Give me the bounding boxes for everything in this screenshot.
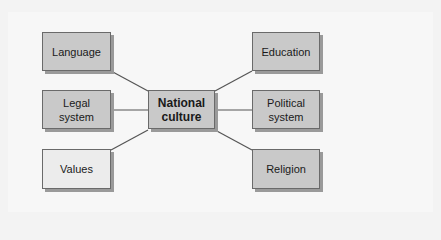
node-label: Religion	[266, 163, 306, 175]
node-national-culture: National culture	[148, 90, 215, 129]
node-legal-system: Legal system	[42, 90, 111, 129]
node-education: Education	[252, 32, 320, 71]
node-religion: Religion	[252, 149, 320, 189]
node-label: Values	[60, 163, 93, 175]
node-label: Political	[267, 96, 305, 110]
node-label: Education	[262, 46, 311, 58]
node-label: system	[267, 110, 305, 124]
node-label: Language	[52, 46, 101, 58]
center-label: culture	[158, 110, 205, 124]
center-label: National	[158, 96, 205, 110]
node-language: Language	[42, 32, 111, 71]
node-values: Values	[42, 149, 111, 189]
node-label: system	[59, 110, 94, 124]
node-political-system: Political system	[252, 90, 320, 129]
node-label: Legal	[59, 96, 94, 110]
